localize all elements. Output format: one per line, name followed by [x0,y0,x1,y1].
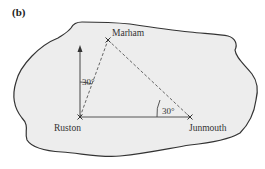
angle-ruston: 30° [82,77,95,87]
island-diagram [0,0,265,169]
label-marham: Marham [112,28,144,38]
label-ruston: Ruston [54,123,81,133]
label-junmouth: Junmouth [189,123,226,133]
island-outline [14,22,257,156]
angle-junmouth: 30° [162,106,175,116]
